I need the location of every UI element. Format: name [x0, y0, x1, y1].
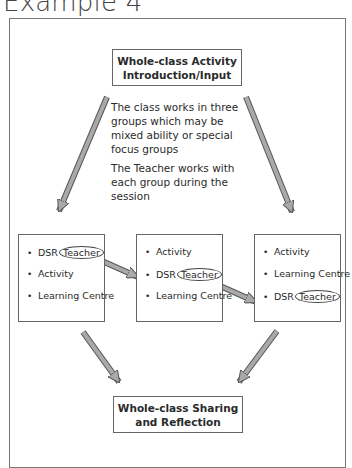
whole-class-intro-box: Whole-class Activity Introduction/Input — [112, 49, 242, 86]
group-1-item-learning-centre: •Learning Centre — [27, 290, 114, 312]
group-3-item-dsr: •DSRTeacher — [263, 290, 350, 312]
group-box-3: •Activity •Learning Centre •DSRTeacher — [254, 234, 341, 322]
note-paragraph-groups: The class works in three groups which ma… — [111, 100, 251, 156]
group-3-item-learning-centre: •Learning Centre — [263, 268, 350, 290]
whole-class-sharing-box: Whole-class Sharing and Reflection — [113, 396, 243, 433]
sharing-box-line1: Whole-class Sharing — [114, 401, 242, 415]
group-box-2: •Activity •DSRTeacher •Learning Centre — [136, 234, 223, 322]
arrow-left-group-to-bottom — [83, 332, 119, 382]
note-paragraph-teacher: The Teacher works with each group during… — [111, 161, 251, 203]
group-3-item-activity: •Activity — [263, 246, 350, 268]
arrow-top-to-left-group — [59, 97, 107, 211]
grouping-note: The class works in three groups which ma… — [111, 100, 251, 208]
group-1-item-dsr: •DSRTeacher — [27, 246, 114, 268]
group-2-item-learning-centre: •Learning Centre — [145, 290, 232, 312]
teacher-ellipse: Teacher — [295, 290, 340, 303]
intro-box-line2: Introduction/Input — [113, 68, 241, 82]
group-1-item-activity: •Activity — [27, 268, 114, 290]
teacher-ellipse: Teacher — [177, 268, 222, 281]
arrow-right-group-to-bottom — [239, 331, 277, 382]
group-2-item-dsr: •DSRTeacher — [145, 268, 232, 290]
intro-box-line1: Whole-class Activity — [113, 54, 241, 68]
group-box-1: •DSRTeacher •Activity •Learning Centre — [18, 234, 105, 322]
group-2-item-activity: •Activity — [145, 246, 232, 268]
sharing-box-line2: and Reflection — [114, 415, 242, 429]
teacher-ellipse: Teacher — [59, 246, 104, 259]
arrow-top-to-right-group — [246, 97, 292, 212]
